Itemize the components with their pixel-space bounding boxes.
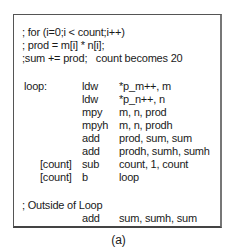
instruction-condition: [count] (40, 158, 72, 171)
comment-line: ;sum += prod; count becomes 20 (22, 52, 183, 65)
instruction-mnemonic: sub (82, 158, 99, 171)
outside-loop-comment: ; Outside of Loop (22, 199, 102, 212)
instruction-operands: sum, sumh, sum (119, 212, 197, 225)
instruction-mnemonic: ldw (82, 80, 98, 93)
comment-line: ; prod = m[i] * n[i]; (22, 39, 104, 52)
instruction-mnemonic: ldw (82, 93, 98, 106)
comment-line: ; for (i=0;i < count;i++) (22, 26, 125, 39)
instruction-operands: count, 1, count (119, 158, 188, 171)
instruction-mnemonic: add (82, 132, 100, 145)
instruction-operands: prod, sum, sum (119, 132, 192, 145)
instruction-operands: loop (119, 171, 139, 184)
instruction-operands: *p_m++, m (119, 80, 171, 93)
instruction-condition: [count] (40, 171, 72, 184)
figure-caption: (a) (0, 233, 237, 247)
instruction-mnemonic: mpy (82, 106, 102, 119)
instruction-mnemonic: b (82, 171, 88, 184)
instruction-operands: prodh, sumh, sumh (119, 145, 210, 158)
instruction-operands: m, n, prodh (119, 119, 172, 132)
instruction-mnemonic: add (82, 212, 100, 225)
instruction-operands: m, n, prod (119, 106, 167, 119)
instruction-mnemonic: mpyh (82, 119, 108, 132)
loop-label: loop: (24, 80, 47, 93)
instruction-operands: *p_n++, n (119, 93, 165, 106)
instruction-mnemonic: add (82, 145, 100, 158)
